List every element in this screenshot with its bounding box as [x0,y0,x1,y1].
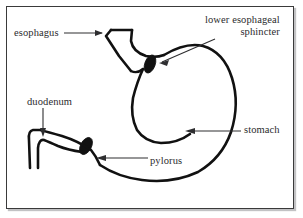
cardiac-notch [131,69,143,72]
pylorus-leader [96,155,148,161]
esophagus-left-wall [106,30,131,71]
stomach-anatomy-figure: esophagus lower esophagealsphincter duod… [0,0,303,218]
esophagus-arrowhead [95,30,103,36]
label-pylorus: pylorus [150,155,182,167]
duodenum-structure [29,130,100,168]
label-les-line1: lower esophageal [205,14,280,25]
esophagus-right-wall [131,30,164,57]
stomach-lesser-curvature [132,69,190,143]
label-stomach: stomach [244,124,280,136]
label-lower-esophageal-sphincter: lower esophagealsphincter [205,14,280,37]
label-esophagus: esophagus [14,27,59,39]
label-duodenum: duodenum [27,96,72,108]
label-les-line2: sphincter [205,26,280,38]
duodenum-inner-wall [38,140,82,168]
esophagus-leader [64,30,103,36]
